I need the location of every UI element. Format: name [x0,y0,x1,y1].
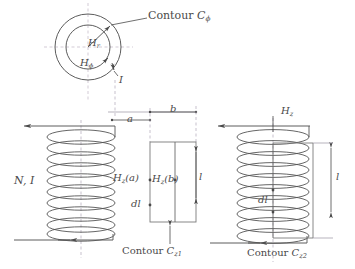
h-phi-label: Hϕ [80,58,93,69]
contour-phi-leader-line [111,18,147,25]
current-top-label: I [119,75,123,85]
dl-right-point [272,189,275,192]
hz-right-label: Hz [281,106,293,117]
contour-z1-group [149,142,196,244]
contour-z2-point [272,211,275,214]
contour-z2-label: Contour Cz2 [247,248,307,259]
contour-z2-rectangle [273,143,313,238]
right-solenoid-group [210,116,333,262]
left-solenoid-group [14,120,115,258]
hz-a-point [149,179,152,182]
turns-current-label: N, I [14,175,34,186]
top-view-group [44,3,147,100]
physics-figure [0,0,355,269]
left-coil-turns [47,130,115,241]
hz-b-label: Hz(b) [152,174,178,185]
dl-left-label: dl [131,199,141,209]
current-label-leader [114,71,118,76]
dimension-row-group [108,106,196,142]
length-l-left-label: l [199,172,202,182]
h-phi-arrow [104,58,108,62]
dimension-b-label: b [170,104,176,114]
length-l-right-label: l [336,172,339,182]
hz-a-label: Hz(a) [113,173,139,184]
contour-z1-label: Contour Cz1 [122,246,182,257]
h-r-label: Hr [88,38,100,49]
dimension-a-label: a [127,114,133,124]
dl-right-label: dl [258,195,268,205]
dl-left-point [149,204,152,207]
contour-phi-label: Contour Cϕ [148,10,210,22]
